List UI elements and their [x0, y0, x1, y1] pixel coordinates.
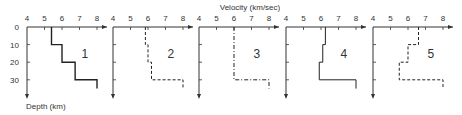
velocity-tick-label: 5 [42, 14, 47, 23]
y-axis-arrow-icon [25, 94, 29, 99]
panel-4: 456784 [284, 14, 366, 99]
velocity-profile-line [319, 27, 356, 89]
y-axis-arrow-icon [111, 94, 115, 99]
velocity-tick-label: 4 [284, 14, 289, 23]
panels: 456781456782456783456784456785 [25, 14, 453, 99]
velocity-tick-label: 5 [301, 14, 306, 23]
x-axis-arrow-icon [448, 25, 453, 29]
x-axis-arrow-icon [188, 25, 193, 29]
velocity-tick-label: 8 [267, 14, 272, 23]
panel-number-label: 3 [253, 47, 260, 61]
velocity-profile-line [52, 27, 98, 89]
velocity-tick-label: 7 [423, 14, 428, 23]
velocity-tick-label: 4 [25, 14, 30, 23]
velocity-tick-label: 8 [95, 14, 100, 23]
velocity-tick-label: 7 [77, 14, 82, 23]
velocity-tick-label: 5 [128, 14, 133, 23]
velocity-tick-label: 7 [336, 14, 341, 23]
velocity-tick-label: 6 [319, 14, 324, 23]
velocity-tick-label: 6 [60, 14, 65, 23]
panel-number-label: 2 [167, 47, 174, 61]
velocity-tick-label: 5 [214, 14, 219, 23]
velocity-tick-label: 5 [388, 14, 393, 23]
x-axis-title: Velocity (km/sec) [220, 3, 281, 12]
panel-1: 456781 [25, 14, 107, 99]
velocity-tick-label: 8 [181, 14, 186, 23]
velocity-profile-line [145, 27, 183, 89]
velocity-tick-label: 7 [249, 14, 254, 23]
y-axis-title: Depth (km) [26, 102, 66, 111]
panel-number-label: 1 [81, 47, 88, 61]
velocity-tick-label: 8 [441, 14, 446, 23]
x-axis-arrow-icon [102, 25, 107, 29]
velocity-tick-label: 6 [406, 14, 411, 23]
y-axis-arrow-icon [284, 94, 288, 99]
velocity-tick-label: 8 [354, 14, 359, 23]
velocity-tick-label: 4 [371, 14, 376, 23]
panel-3: 456783 [197, 14, 279, 99]
depth-tick-label: 0 [15, 23, 20, 32]
velocity-tick-label: 6 [232, 14, 237, 23]
panel-2: 456782 [111, 14, 193, 99]
velocity-profile-line [399, 27, 443, 89]
depth-tick-label: 10 [10, 41, 19, 50]
velocity-profile-line [234, 27, 269, 89]
panel-number-label: 4 [340, 47, 347, 61]
depth-tick-label: 20 [10, 58, 19, 67]
velocity-depth-figure: Velocity (km/sec) 0102030 45678145678245… [0, 0, 462, 115]
velocity-tick-label: 4 [111, 14, 116, 23]
depth-tick-label: 30 [10, 76, 19, 85]
y-axis-arrow-icon [371, 94, 375, 99]
velocity-tick-label: 6 [146, 14, 151, 23]
velocity-tick-label: 4 [197, 14, 202, 23]
panel-5: 456785 [371, 14, 453, 99]
depth-tick-labels: 0102030 [10, 23, 19, 85]
x-axis-arrow-icon [274, 25, 279, 29]
y-axis-arrow-icon [197, 94, 201, 99]
velocity-tick-label: 7 [163, 14, 168, 23]
x-axis-arrow-icon [361, 25, 366, 29]
panel-number-label: 5 [427, 47, 434, 61]
